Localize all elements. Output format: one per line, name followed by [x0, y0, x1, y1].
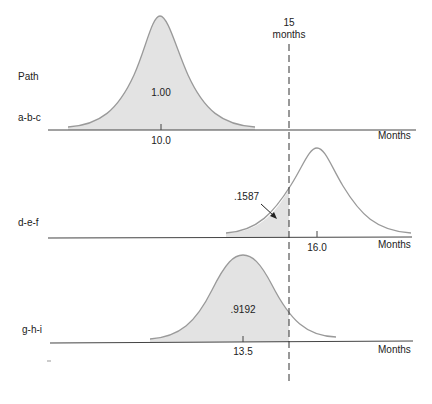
mean-label-a-b-c: 10.0	[151, 135, 171, 146]
diagram-canvas: Path a-b-c 1.00 10.0 Months d-e-f .1587 …	[0, 0, 432, 404]
x-axis-label-d-e-f: Months	[378, 239, 411, 250]
mean-label-d-e-f: 16.0	[307, 242, 327, 253]
path-a-b-c-panel: a-b-c 1.00 10.0 Months	[18, 16, 416, 146]
probability-label-a-b-c: 1.00	[151, 87, 171, 98]
path-probability-diagram: Path a-b-c 1.00 10.0 Months d-e-f .1587 …	[0, 0, 432, 404]
distribution-fill-a-b-c	[68, 16, 255, 130]
cutoff-value-label: 15	[283, 17, 295, 28]
path-label-g-h-i: g-h-i	[22, 324, 42, 335]
row-header: Path	[18, 71, 39, 82]
probability-label-g-h-i: .9192	[230, 304, 255, 315]
path-label-d-e-f: d-e-f	[18, 217, 39, 228]
path-d-e-f-panel: d-e-f .1587 16.0 Months	[18, 148, 412, 253]
probability-label-d-e-f: .1587	[234, 191, 259, 202]
path-g-h-i-panel: g-h-i .9192 13.5 Months	[22, 255, 413, 361]
x-axis-label-a-b-c: Months	[378, 130, 411, 141]
distribution-fill-g-h-i	[150, 255, 289, 342]
mean-label-g-h-i: 13.5	[233, 346, 253, 357]
path-label-a-b-c: a-b-c	[18, 112, 41, 123]
x-axis-label-g-h-i: Months	[378, 344, 411, 355]
cutoff-unit-label: months	[273, 29, 306, 40]
axis-d-e-f	[48, 237, 412, 238]
